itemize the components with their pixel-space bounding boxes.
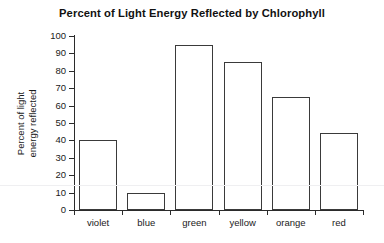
y-tick-90 <box>69 53 74 54</box>
x-tick-boundary-0 <box>74 210 75 215</box>
chart-title: Percent of Light Energy Reflected by Chl… <box>0 7 384 19</box>
y-tick-60 <box>69 106 74 107</box>
y-tick-10 <box>69 193 74 194</box>
bar-orange <box>272 97 310 210</box>
y-tick-label-40: 40 <box>26 135 66 145</box>
x-tick-boundary-3 <box>219 210 220 215</box>
y-tick-80 <box>69 71 74 72</box>
y-tick-20 <box>69 175 74 176</box>
y-tick-100 <box>69 36 74 37</box>
y-tick-label-70: 70 <box>26 83 66 93</box>
y-tick-label-100: 100 <box>26 31 66 41</box>
x-tick-boundary-6 <box>363 210 364 215</box>
bar-red <box>320 133 358 210</box>
bar-chart-figure: Percent of Light Energy Reflected by Chl… <box>0 0 384 243</box>
y-tick-label-50: 50 <box>26 118 66 128</box>
y-tick-label-10: 10 <box>26 188 66 198</box>
y-tick-label-30: 30 <box>26 153 66 163</box>
y-tick-label-80: 80 <box>26 66 66 76</box>
x-tick-boundary-1 <box>122 210 123 215</box>
x-tick-label-violet: violet <box>74 218 122 228</box>
y-tick-30 <box>69 158 74 159</box>
bar-blue <box>127 193 165 210</box>
x-tick-label-yellow: yellow <box>219 218 267 228</box>
y-tick-label-60: 60 <box>26 101 66 111</box>
y-tick-40 <box>69 140 74 141</box>
x-tick-label-green: green <box>170 218 218 228</box>
x-tick-boundary-5 <box>315 210 316 215</box>
x-tick-label-orange: orange <box>267 218 315 228</box>
x-tick-boundary-4 <box>267 210 268 215</box>
bar-yellow <box>224 62 262 210</box>
y-tick-label-90: 90 <box>26 48 66 58</box>
y-tick-50 <box>69 123 74 124</box>
y-tick-label-20: 20 <box>26 170 66 180</box>
y-tick-70 <box>69 88 74 89</box>
bar-green <box>175 45 213 210</box>
y-axis-title-line-1: Percent of light <box>15 89 27 157</box>
y-axis-line <box>74 35 75 211</box>
x-tick-label-blue: blue <box>122 218 170 228</box>
x-tick-label-red: red <box>315 218 363 228</box>
bar-violet <box>79 140 117 210</box>
y-tick-label-0: 0 <box>26 205 66 215</box>
x-tick-boundary-2 <box>170 210 171 215</box>
